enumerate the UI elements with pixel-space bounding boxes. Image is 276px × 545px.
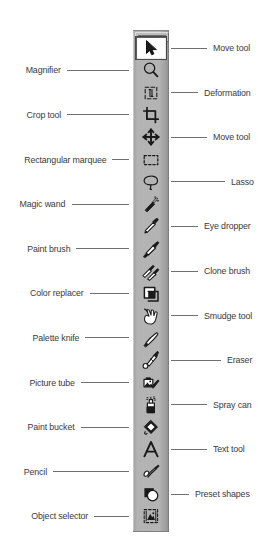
pencil-icon bbox=[141, 462, 161, 482]
four-way-arrows-icon bbox=[141, 127, 161, 147]
leader-line bbox=[81, 382, 129, 383]
tool-button-spray-can[interactable] bbox=[136, 394, 166, 416]
leader-line bbox=[171, 137, 207, 138]
callout-label: Text tool bbox=[213, 442, 245, 456]
tool-button-paint-brush[interactable] bbox=[136, 238, 166, 260]
callout-object-selector: Object selector bbox=[0, 509, 133, 523]
tool-button-magic-wand[interactable] bbox=[136, 193, 166, 215]
callout-text-tool: Text tool bbox=[171, 442, 274, 456]
leader-line bbox=[171, 494, 189, 495]
callout-deformation: Deformation bbox=[171, 86, 274, 100]
eraser-icon bbox=[141, 350, 161, 370]
rectangular-marquee-icon bbox=[141, 150, 161, 170]
deformation-icon bbox=[141, 83, 161, 103]
leader-line bbox=[171, 360, 221, 361]
tool-button-clone-brush[interactable] bbox=[136, 260, 166, 282]
text-tool-icon bbox=[141, 439, 161, 459]
magnifier-icon bbox=[141, 60, 161, 80]
callout-paint-bucket: Paint bucket bbox=[0, 420, 133, 434]
leader-line bbox=[72, 204, 130, 205]
leader-line bbox=[171, 404, 207, 405]
palette-knife-icon bbox=[141, 328, 161, 348]
tool-button-lasso[interactable] bbox=[136, 171, 166, 193]
callout-label: Picture tube bbox=[29, 376, 74, 390]
leader-line bbox=[171, 181, 225, 182]
arrow-cursor-icon bbox=[141, 38, 161, 58]
callout-label: Paint bucket bbox=[28, 420, 75, 434]
tool-button-text-tool[interactable] bbox=[136, 438, 166, 460]
leader-line bbox=[67, 114, 129, 115]
tool-button-palette-knife[interactable] bbox=[136, 327, 166, 349]
color-replacer-icon bbox=[141, 283, 161, 303]
callout-label: Rectangular marquee bbox=[24, 153, 106, 167]
callout-magnifier: Magnifier bbox=[0, 63, 133, 77]
leader-line bbox=[76, 248, 129, 249]
callout-label: Palette knife bbox=[32, 331, 79, 345]
callout-label: Magic wand bbox=[20, 197, 66, 211]
callout-paint-brush: Paint brush bbox=[0, 242, 133, 256]
tool-button-deformation[interactable] bbox=[136, 82, 166, 104]
callout-label: Deformation bbox=[204, 86, 251, 100]
tool-palette-figure: Move toolMagnifierDeformationCrop toolMo… bbox=[0, 0, 276, 545]
tool-button-object-selector[interactable] bbox=[136, 505, 166, 527]
tool-button-smudge-hand[interactable] bbox=[136, 305, 166, 327]
leader-line bbox=[85, 337, 129, 338]
tool-button-preset-shapes[interactable] bbox=[136, 483, 166, 505]
tool-button-paint-bucket[interactable] bbox=[136, 416, 166, 438]
callout-magic-wand: Magic wand bbox=[0, 197, 133, 211]
callout-picture-tube: Picture tube bbox=[0, 376, 133, 390]
tool-button-eraser[interactable] bbox=[136, 349, 166, 371]
callout-palette-knife: Palette knife bbox=[0, 331, 133, 345]
tool-button-crop[interactable] bbox=[136, 104, 166, 126]
callout-four-way-arrows: Move tool bbox=[171, 130, 274, 144]
leader-line bbox=[171, 226, 198, 227]
tool-button-picture-tube[interactable] bbox=[136, 372, 166, 394]
preset-shapes-icon bbox=[141, 484, 161, 504]
callout-label: Eraser bbox=[227, 353, 252, 367]
paint-bucket-icon bbox=[141, 417, 161, 437]
object-selector-icon bbox=[141, 506, 161, 526]
callout-pencil: Pencil bbox=[0, 465, 133, 479]
callout-label: Move tool bbox=[213, 130, 250, 144]
callout-smudge-hand: Smudge tool bbox=[171, 309, 274, 323]
callout-label: Color replacer bbox=[30, 286, 84, 300]
callout-label: Smudge tool bbox=[204, 309, 252, 323]
spray-can-icon bbox=[141, 395, 161, 415]
callout-color-replacer: Color replacer bbox=[0, 286, 133, 300]
tool-button-pencil[interactable] bbox=[136, 461, 166, 483]
callout-label: Clone brush bbox=[204, 264, 250, 278]
smudge-hand-icon bbox=[141, 306, 161, 326]
callout-arrow-cursor: Move tool bbox=[171, 41, 274, 55]
callout-spray-can: Spray can bbox=[171, 398, 274, 412]
tool-button-eye-dropper[interactable] bbox=[136, 215, 166, 237]
leader-line bbox=[90, 293, 129, 294]
callout-label: Preset shapes bbox=[195, 487, 250, 501]
leader-line bbox=[67, 70, 129, 71]
crop-icon bbox=[141, 105, 161, 125]
leader-line bbox=[171, 92, 198, 93]
leader-line bbox=[171, 449, 207, 450]
callout-label: Move tool bbox=[213, 41, 250, 55]
tool-button-four-way-arrows[interactable] bbox=[136, 126, 166, 148]
callout-eye-dropper: Eye dropper bbox=[171, 219, 274, 233]
callout-eraser: Eraser bbox=[171, 353, 274, 367]
eye-dropper-icon bbox=[141, 216, 161, 236]
magic-wand-icon bbox=[141, 194, 161, 214]
callout-label: Eye dropper bbox=[204, 219, 251, 233]
callout-label: Lasso bbox=[231, 175, 254, 189]
callout-lasso: Lasso bbox=[171, 175, 274, 189]
tool-button-arrow-cursor[interactable] bbox=[136, 37, 166, 59]
leader-line bbox=[53, 471, 129, 472]
tool-button-magnifier[interactable] bbox=[136, 59, 166, 81]
callout-label: Spray can bbox=[213, 398, 252, 412]
leader-line bbox=[171, 315, 198, 316]
picture-tube-icon bbox=[141, 373, 161, 393]
callout-clone-brush: Clone brush bbox=[171, 264, 274, 278]
callout-label: Crop tool bbox=[26, 108, 61, 122]
callout-label: Paint brush bbox=[27, 242, 70, 256]
tool-button-rectangular-marquee[interactable] bbox=[136, 149, 166, 171]
paint-brush-icon bbox=[141, 239, 161, 259]
callout-label: Object selector bbox=[31, 509, 88, 523]
tool-button-color-replacer[interactable] bbox=[136, 282, 166, 304]
lasso-icon bbox=[141, 172, 161, 192]
